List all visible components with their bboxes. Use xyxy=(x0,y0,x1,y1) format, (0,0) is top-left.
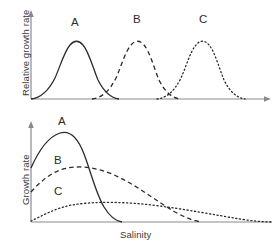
top-x-axis xyxy=(31,96,271,102)
bottom-y-axis-label: Growth rate xyxy=(20,154,31,205)
top-panel: Relative growth rate A B C xyxy=(0,0,274,112)
bottom-curve-c xyxy=(31,202,272,222)
bottom-curve-a xyxy=(31,132,122,222)
top-y-axis-label: Relative growth rate xyxy=(20,10,31,96)
bottom-curve-label-b: B xyxy=(54,154,62,166)
bottom-curve-label-c: C xyxy=(54,185,62,197)
bottom-x-axis-label: Salinity xyxy=(120,229,151,240)
top-curve-label-a: A xyxy=(71,16,79,28)
top-curve-label-b: B xyxy=(133,13,141,25)
top-curve-a xyxy=(31,41,119,99)
bottom-curve-label-a: A xyxy=(58,115,66,127)
bottom-panel: Growth rate Salinity A B C xyxy=(0,112,274,249)
top-curve-c xyxy=(157,41,245,99)
niche-growth-rate-figure: Relative growth rate A B C Growth rate S… xyxy=(0,0,274,249)
top-curve-label-c: C xyxy=(199,13,207,25)
